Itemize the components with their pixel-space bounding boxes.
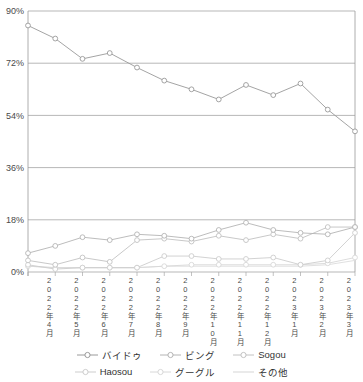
x-axis-label: 2022年6月 [85,276,107,337]
data-point [53,244,58,249]
legend-marker-icon [233,350,254,360]
data-point [135,65,140,70]
legend-marker-icon [160,350,181,360]
data-point [325,107,330,112]
data-point [107,259,112,264]
data-point [216,97,221,102]
y-axis-tick-label: 18% [6,215,24,225]
data-point [271,228,276,233]
line-chart: 0%18%36%54%72%90% 2022年4月2022年5月2022年6月2… [0,0,363,382]
x-axis-label: 2022年8月 [140,276,162,337]
data-point [325,225,330,230]
data-point [135,238,140,243]
data-point [298,236,303,241]
legend-marker-icon [77,350,98,360]
data-point [189,87,194,92]
y-axis-tick-label: 54% [6,111,24,121]
data-point [26,251,31,256]
data-point [80,56,85,61]
legend-marker-icon [75,367,96,377]
data-point [244,257,249,262]
data-point [271,255,276,260]
data-point [271,93,276,98]
chart-legend: バイドゥ ビング Sogou [0,346,363,382]
legend-marker-icon [150,367,171,377]
data-point [53,36,58,41]
x-axis-label: 2022年9月 [167,276,189,337]
data-point [325,258,330,263]
data-point [162,233,167,238]
data-point [189,236,194,241]
x-axis-label: 2022年10月 [194,276,216,346]
legend-item-haosou[interactable]: Haosou [75,366,133,377]
legend-label: バイドゥ [102,348,142,362]
y-axis-tick-label: 90% [6,6,24,16]
data-point [80,265,85,270]
data-point [353,225,358,230]
data-point [107,51,112,56]
data-point [162,264,167,269]
data-point [26,23,31,28]
data-point [216,257,221,262]
y-axis-tick-label: 36% [6,163,24,173]
legend-row-2: Haosou グーグル その他 [0,363,363,380]
data-point [80,235,85,240]
legend-item-sogou[interactable]: Sogou [233,349,285,360]
x-axis-label: 2023年1月 [276,276,298,337]
x-axis-label: 2022年5月 [58,276,80,337]
y-axis-tick-label: 72% [6,58,24,68]
data-point [107,238,112,243]
data-point [216,262,221,267]
data-point [298,81,303,86]
data-point [189,254,194,259]
data-point [271,262,276,267]
x-axis-labels: 2022年4月2022年5月2022年6月2022年7月2022年8月2022年… [0,274,363,344]
x-axis-label: 2023年2月 [303,276,325,337]
data-point [298,230,303,235]
data-point [325,232,330,237]
data-point [353,230,358,235]
data-point [107,265,112,270]
data-point [80,255,85,260]
data-point [135,265,140,270]
x-axis-label: 2022年7月 [112,276,134,337]
legend-label: Sogou [258,349,285,360]
legend-row-1: バイドゥ ビング Sogou [0,346,363,363]
data-point [244,83,249,88]
x-axis-label: 2023年3月 [330,276,352,337]
x-axis-label: 2022年12月 [249,276,271,346]
legend-item-other[interactable]: その他 [233,365,288,379]
plot-area: 0%18%36%54%72%90% [0,0,363,290]
data-point [244,220,249,225]
data-point [135,232,140,237]
data-point [53,262,58,267]
chart-svg: 0%18%36%54%72%90% [0,0,363,290]
legend-item-bing[interactable]: ビング [160,348,215,362]
data-point [353,255,358,260]
data-point [189,262,194,267]
x-axis-label: 2022年11月 [221,276,243,346]
legend-label: Haosou [100,366,133,377]
legend-marker-icon [233,367,254,377]
legend-label: グーグル [175,365,215,379]
data-point [216,233,221,238]
legend-label: ビング [185,348,215,362]
data-point [244,262,249,267]
legend-item-google[interactable]: グーグル [150,365,215,379]
data-point [216,228,221,233]
data-point [298,262,303,267]
data-point [353,129,358,134]
legend-item-baidu[interactable]: バイドゥ [77,348,142,362]
data-point [162,78,167,83]
data-point [162,254,167,259]
x-axis-label: 2022年4月 [31,276,53,337]
legend-label: その他 [258,365,288,379]
data-point [244,238,249,243]
data-point [26,258,31,263]
